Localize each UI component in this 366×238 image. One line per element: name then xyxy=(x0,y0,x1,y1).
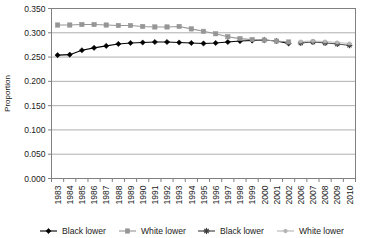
x-tick-label: 2007 xyxy=(308,185,318,204)
x-tick-label: 2000 xyxy=(260,185,270,204)
data-point-marker xyxy=(55,23,59,27)
data-point-marker xyxy=(153,25,157,29)
x-tick-label: 1991 xyxy=(150,185,160,204)
x-tick-label: 2009 xyxy=(332,185,342,204)
x-tick-label: 1998 xyxy=(235,185,245,204)
data-point-marker xyxy=(201,29,205,33)
x-tick-label: 2006 xyxy=(296,185,306,204)
data-point-marker xyxy=(286,40,290,44)
legend-entry-label: Black lower xyxy=(62,226,106,236)
x-tick-label: 1986 xyxy=(89,185,99,204)
data-point-marker xyxy=(323,40,327,44)
x-tick-label: 1989 xyxy=(126,185,136,204)
x-tick-label: 1994 xyxy=(187,185,197,204)
x-tick-label: 1993 xyxy=(174,185,184,204)
data-point-marker xyxy=(92,22,96,26)
data-point-marker xyxy=(311,39,315,43)
data-point-marker xyxy=(213,32,217,36)
x-tick-label: 1992 xyxy=(162,185,172,204)
x-tick-label: 1987 xyxy=(101,185,111,204)
x-tick-label: 1985 xyxy=(77,185,87,204)
x-tick-label: 2002 xyxy=(284,185,294,204)
data-point-marker xyxy=(299,40,303,44)
y-axis-title: Proportion xyxy=(3,75,12,112)
data-point-marker xyxy=(203,228,209,234)
data-point-marker xyxy=(80,22,84,26)
x-tick-label: 2008 xyxy=(320,185,330,204)
data-point-marker xyxy=(68,23,72,27)
y-tick-label: 0.050 xyxy=(24,149,46,159)
x-tick-label: 2001 xyxy=(272,185,282,204)
chart-container: 0.0000.0500.1000.1500.2000.2500.3000.350… xyxy=(0,0,366,238)
y-tick-label: 0.350 xyxy=(24,4,46,14)
data-point-marker xyxy=(125,229,129,233)
legend-entry-label: White lower xyxy=(299,226,344,236)
line-chart: 0.0000.0500.1000.1500.2000.2500.3000.350… xyxy=(0,0,366,238)
legend-entry-label: Black lower xyxy=(220,226,264,236)
data-point-marker xyxy=(177,24,181,28)
y-tick-label: 0.250 xyxy=(24,52,46,62)
data-point-marker xyxy=(348,42,352,46)
data-point-marker xyxy=(238,36,242,40)
data-point-marker xyxy=(165,25,169,29)
legend-entry-label: White lower xyxy=(141,226,186,236)
x-tick-label: 1996 xyxy=(211,185,221,204)
x-tick-label: 1995 xyxy=(199,185,209,204)
x-tick-label: 2010 xyxy=(345,185,355,204)
data-point-marker xyxy=(250,37,254,41)
x-tick-label: 1988 xyxy=(114,185,124,204)
data-point-marker xyxy=(141,24,145,28)
x-tick-label: 1983 xyxy=(53,185,63,204)
data-point-marker xyxy=(335,41,339,45)
x-tick-label: 1990 xyxy=(138,185,148,204)
data-point-marker xyxy=(116,23,120,27)
data-point-marker xyxy=(128,23,132,27)
y-tick-label: 0.100 xyxy=(24,125,46,135)
y-tick-label: 0.000 xyxy=(24,174,46,184)
data-point-marker xyxy=(226,34,230,38)
y-axis-title-text: Proportion xyxy=(3,75,12,112)
x-tick-label: 1999 xyxy=(247,185,257,204)
data-point-marker xyxy=(284,229,288,233)
x-tick-label: 1997 xyxy=(223,185,233,204)
y-tick-label: 0.150 xyxy=(24,101,46,111)
y-tick-label: 0.200 xyxy=(24,76,46,86)
data-point-marker xyxy=(262,38,266,42)
data-point-marker xyxy=(189,27,193,31)
x-axis-tick-labels: 1983198419851986198719881989199019911992… xyxy=(53,185,355,204)
x-tick-label: 1984 xyxy=(65,185,75,204)
data-point-marker xyxy=(104,23,108,27)
data-point-marker xyxy=(274,39,278,43)
y-tick-label: 0.300 xyxy=(24,28,46,38)
